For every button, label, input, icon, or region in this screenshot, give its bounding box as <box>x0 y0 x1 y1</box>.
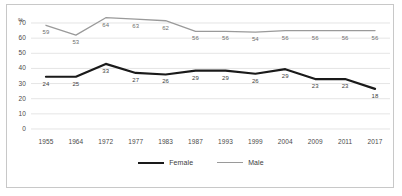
data-label-male: 54 <box>244 36 266 42</box>
y-tick-label: 50 <box>4 49 26 56</box>
x-tick-label: 1993 <box>208 138 242 145</box>
data-label-male: 64 <box>95 22 117 28</box>
y-tick-label: 0 <box>4 125 26 132</box>
y-tick-label: 60 <box>4 34 26 41</box>
data-label-male: 56 <box>214 35 236 41</box>
data-label-female: 24 <box>35 81 57 87</box>
y-tick-label: 40 <box>4 64 26 71</box>
data-label-male: 56 <box>334 35 356 41</box>
data-label-male: 63 <box>125 23 147 29</box>
data-label-male: 56 <box>304 35 326 41</box>
data-label-male: 53 <box>65 39 87 45</box>
data-label-female: 23 <box>334 83 356 89</box>
y-tick-label: 30 <box>4 80 26 87</box>
data-label-male: 62 <box>155 25 177 31</box>
x-tick-label: 2017 <box>358 138 392 145</box>
data-label-female: 26 <box>244 78 266 84</box>
legend-item-male[interactable]: Male <box>217 159 264 166</box>
x-tick-label: 1977 <box>119 138 153 145</box>
x-tick-label: 2004 <box>268 138 302 145</box>
x-tick-label: 1972 <box>89 138 123 145</box>
chart-canvas <box>0 0 402 196</box>
data-label-female: 25 <box>65 81 87 87</box>
data-label-female: 26 <box>155 78 177 84</box>
chart-legend: Female Male <box>0 159 402 166</box>
y-tick-label: 70 <box>4 19 26 26</box>
legend-line-female-icon <box>138 162 164 164</box>
data-label-male: 56 <box>274 35 296 41</box>
legend-item-female[interactable]: Female <box>138 159 193 166</box>
data-label-male: 59 <box>35 29 57 35</box>
data-label-male: 56 <box>364 35 386 41</box>
data-label-male: 56 <box>185 35 207 41</box>
x-tick-label: 1999 <box>238 138 272 145</box>
legend-label-male: Male <box>248 159 264 166</box>
x-tick-label: 1964 <box>59 138 93 145</box>
data-label-female: 23 <box>304 83 326 89</box>
legend-line-male-icon <box>217 162 243 163</box>
x-tick-label: 1983 <box>149 138 183 145</box>
x-tick-label: 1955 <box>29 138 63 145</box>
y-tick-label: 20 <box>4 95 26 102</box>
x-tick-label: 2009 <box>298 138 332 145</box>
x-tick-label: 2011 <box>328 138 362 145</box>
data-label-female: 18 <box>364 93 386 99</box>
line-chart: % 010203040506070 1955196419721977198319… <box>0 0 402 196</box>
data-label-female: 33 <box>95 68 117 74</box>
data-label-female: 29 <box>185 75 207 81</box>
data-label-female: 27 <box>125 77 147 83</box>
x-tick-label: 1987 <box>179 138 213 145</box>
legend-label-female: Female <box>169 159 193 166</box>
data-label-female: 29 <box>274 73 296 79</box>
data-label-female: 29 <box>214 75 236 81</box>
y-tick-label: 10 <box>4 110 26 117</box>
